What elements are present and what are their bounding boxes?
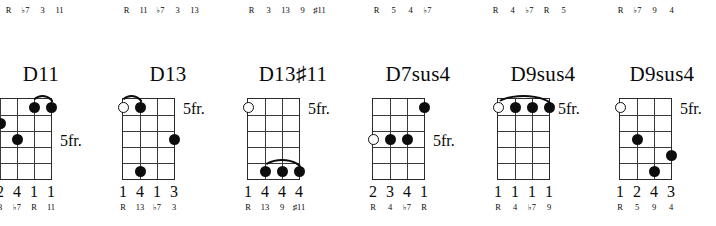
finger-number: 4	[646, 0, 663, 3]
finger-number-row: 32411	[0, 183, 60, 201]
finger-number-row: 11134	[118, 0, 203, 3]
interval-label: ♭7	[9, 202, 26, 213]
finger-number: 4	[646, 183, 663, 201]
fret-line	[123, 131, 174, 132]
interval-label: 5	[555, 4, 572, 16]
finger-number: 4	[402, 0, 419, 3]
finger-number-row: 1243	[612, 183, 680, 201]
interval-label-row: R54♭7	[368, 4, 436, 16]
finger-number-row: 21131	[243, 0, 328, 3]
interval-label: 13	[257, 202, 274, 213]
interval-label-row: R3♭7R11	[0, 202, 60, 213]
finger-number: 1	[152, 0, 169, 3]
fret-line	[373, 147, 424, 148]
fretboard-grid	[372, 98, 425, 180]
interval-label-row: R13♭73	[115, 202, 183, 213]
clipped-chord-labels: 11134R11♭7313	[118, 0, 203, 16]
finger-number: 3	[521, 0, 538, 3]
interval-label: R	[0, 4, 17, 16]
interval-label-row: R♭794	[612, 4, 680, 16]
interval-label: 13	[132, 202, 149, 213]
finger-number: 1	[311, 0, 328, 3]
chord-name: D9sus4	[487, 62, 599, 86]
interval-label: R	[365, 202, 382, 213]
finger-dot	[666, 150, 677, 161]
finger-number-row: 1413	[115, 183, 183, 201]
clipped-top-chord-row: 2341R♭731111134R11♭731321131R3139♯111344…	[0, 0, 716, 34]
string-line	[157, 99, 158, 179]
finger-dot	[632, 134, 643, 145]
open-string-marker	[615, 102, 626, 113]
finger-number: 1	[416, 183, 433, 201]
barre-arc	[494, 95, 553, 107]
finger-number: 2	[0, 0, 17, 3]
finger-number: 2	[0, 183, 9, 201]
finger-number: 1	[541, 183, 558, 201]
finger-number: 4	[291, 183, 308, 201]
finger-number: 3	[169, 0, 186, 3]
finger-number: 1	[240, 183, 257, 201]
finger-dot	[402, 134, 413, 145]
finger-number-row: 1444	[240, 183, 308, 201]
chord-name: D13♯11	[237, 62, 349, 86]
interval-label: R	[612, 4, 629, 16]
interval-label: R	[490, 202, 507, 213]
finger-number: 4	[399, 183, 416, 201]
finger-number: 2	[487, 0, 504, 3]
interval-label: R	[487, 4, 504, 16]
finger-number: 2	[365, 183, 382, 201]
finger-number: 1	[135, 0, 152, 3]
finger-number-row: 22314	[487, 0, 572, 3]
interval-label: 9	[541, 202, 558, 213]
finger-number: 4	[9, 183, 26, 201]
interval-label-row: R4♭7R	[365, 202, 433, 213]
fret-line	[123, 163, 174, 164]
finger-dot	[0, 118, 6, 129]
finger-number: 3	[17, 0, 34, 3]
interval-label: ♭7	[17, 4, 34, 16]
finger-number: 1	[115, 183, 132, 201]
finger-number: 4	[257, 183, 274, 201]
fret-line	[498, 115, 549, 116]
finger-number-row: 2341	[365, 183, 433, 201]
fret-position-label: 5fr.	[680, 101, 702, 117]
finger-number-row: 2341	[612, 0, 680, 3]
chord-name: D9sus4	[609, 62, 715, 86]
fretboard-diagram: 5fr.	[619, 98, 672, 180]
interval-label: ♭7	[152, 4, 169, 16]
fretboard-diagram: 5fr.	[372, 98, 425, 180]
interval-label: ♭7	[629, 4, 646, 16]
fret-position-label: 5fr.	[60, 133, 82, 149]
interval-label: 4	[507, 202, 524, 213]
finger-number: 3	[382, 183, 399, 201]
interval-label: 4	[504, 4, 521, 16]
interval-label: 3	[34, 4, 51, 16]
barre-arc	[119, 95, 144, 107]
interval-label: ♭7	[521, 4, 538, 16]
finger-number: 2	[629, 183, 646, 201]
fret-position-label: 5fr.	[433, 133, 455, 149]
fret-line	[498, 163, 549, 164]
interval-label: R	[538, 4, 555, 16]
finger-number: 1	[26, 183, 43, 201]
fret-line	[373, 163, 424, 164]
fret-line	[0, 163, 51, 164]
finger-number: 1	[663, 0, 680, 3]
finger-number: 1	[507, 183, 524, 201]
fret-line	[620, 115, 671, 116]
interval-label: ♯11	[311, 4, 328, 16]
clipped-chord-labels: 2341R♭7311	[0, 0, 68, 16]
fret-line	[248, 131, 299, 132]
fret-position-label: 5fr.	[558, 101, 580, 117]
interval-label-row: R4♭79	[490, 202, 558, 213]
fretboard-grid	[0, 98, 52, 180]
fret-position-label: 5fr.	[183, 101, 205, 117]
interval-label-row: R594	[612, 202, 680, 213]
fret-position-label: 5fr.	[308, 101, 330, 117]
fret-line	[620, 147, 671, 148]
interval-label: 9	[294, 4, 311, 16]
fret-line	[123, 115, 174, 116]
finger-number: 1	[612, 183, 629, 201]
finger-dot	[169, 134, 180, 145]
interval-label: 11	[135, 4, 152, 16]
